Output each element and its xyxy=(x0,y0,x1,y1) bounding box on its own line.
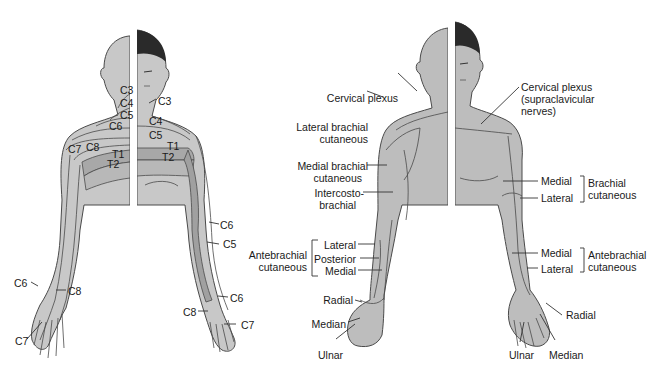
label-t2-front: T2 xyxy=(162,151,174,163)
label-c6-back: C6 xyxy=(109,120,122,132)
label-antebrachial-back-line2: cutaneous xyxy=(259,261,307,273)
label-c4-front: C4 xyxy=(149,115,162,127)
label-c3-back: C3 xyxy=(120,84,133,96)
label-ante-posterior-back: Posterior xyxy=(314,253,356,265)
label-intercostobrachial-line2: brachial xyxy=(319,199,356,211)
label-c4-back: C4 xyxy=(120,97,133,109)
label-c7-back: C7 xyxy=(68,143,81,155)
label-c6-forearm: C6 xyxy=(220,219,233,231)
label-c5-forearm: C5 xyxy=(223,238,236,250)
label-intercostobrachial-line1: Intercosto- xyxy=(314,187,364,199)
label-radial-front: Radial xyxy=(566,309,596,321)
label-c6-wrist-right: C6 xyxy=(230,292,243,304)
label-lateral-brachial-line1: Lateral brachial xyxy=(296,121,368,133)
label-brachial-medial: Medial xyxy=(541,175,572,187)
label-radial-back: Radial xyxy=(323,294,353,306)
label-cervical-plexus: Cervical plexus xyxy=(327,92,398,104)
label-antebrachial-back-line1: Antebrachial xyxy=(249,249,307,261)
label-c3-front: C3 xyxy=(158,95,171,107)
right-figure-front-half xyxy=(455,22,550,348)
label-ulnar-front: Ulnar xyxy=(509,349,534,361)
label-ante-front-medial: Medial xyxy=(541,247,572,259)
label-cervical-plexus-supra-line1: Cervical plexus xyxy=(521,81,592,93)
label-ante-medial-back: Medial xyxy=(325,265,356,277)
label-c8-hand-left: C8 xyxy=(68,285,81,297)
label-c8-back: C8 xyxy=(86,141,99,153)
label-brachial-lateral: Lateral xyxy=(541,192,573,204)
label-ulnar-back: Ulnar xyxy=(318,349,343,361)
label-ante-lateral-back: Lateral xyxy=(324,239,356,251)
label-c7-hand-right: C7 xyxy=(241,319,254,331)
label-c8-hand-right: C8 xyxy=(183,306,196,318)
label-c7-hand-left: C7 xyxy=(15,335,28,347)
label-medial-brachial-line2: cutaneous xyxy=(314,172,362,184)
label-cervical-plexus-supra-line3: nerves) xyxy=(521,105,556,117)
label-lateral-brachial-line2: cutaneous xyxy=(320,133,368,145)
label-antebrachial-front-line2: cutaneous xyxy=(588,261,636,273)
left-figure-back-half xyxy=(31,36,130,358)
label-c5-front: C5 xyxy=(149,129,162,141)
label-ante-front-lateral: Lateral xyxy=(541,263,573,275)
left-figure-front-half xyxy=(137,30,235,352)
label-median-front: Median xyxy=(549,349,583,361)
label-cervical-plexus-supra-line2: (supraclavicular xyxy=(521,93,595,105)
label-brachial-cutaneous-line1: Brachial xyxy=(588,177,626,189)
label-c6-hand-left: C6 xyxy=(14,277,27,289)
label-median-back: Median xyxy=(312,318,346,330)
label-brachial-cutaneous-line2: cutaneous xyxy=(588,189,636,201)
label-medial-brachial-line1: Medial brachial xyxy=(297,160,368,172)
label-antebrachial-front-line1: Antebrachial xyxy=(588,249,646,261)
label-t2-back: T2 xyxy=(107,158,119,170)
